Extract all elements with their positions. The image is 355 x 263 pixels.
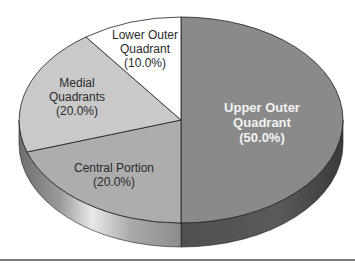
label-line: Quadrant <box>224 115 300 130</box>
label-line: Upper Outer <box>224 100 300 115</box>
label-line: (10.0%) <box>112 56 178 70</box>
label-upper-outer-quadrant: Upper Outer Quadrant (50.0%) <box>224 100 300 145</box>
label-line: Quadrant <box>112 42 178 56</box>
divider-line <box>0 259 355 261</box>
label-line: Central Portion <box>74 161 154 175</box>
label-line: (20.0%) <box>74 175 154 189</box>
label-line: (50.0%) <box>224 130 300 145</box>
label-line: Lower Outer <box>112 28 178 42</box>
label-line: Medial <box>49 76 105 90</box>
label-medial-quadrants: Medial Quadrants (20.0%) <box>49 76 105 118</box>
label-central-portion: Central Portion (20.0%) <box>74 161 154 189</box>
label-line: (20.0%) <box>49 104 105 118</box>
label-lower-outer-quadrant: Lower Outer Quadrant (10.0%) <box>112 28 178 70</box>
label-line: Quadrants <box>49 90 105 104</box>
